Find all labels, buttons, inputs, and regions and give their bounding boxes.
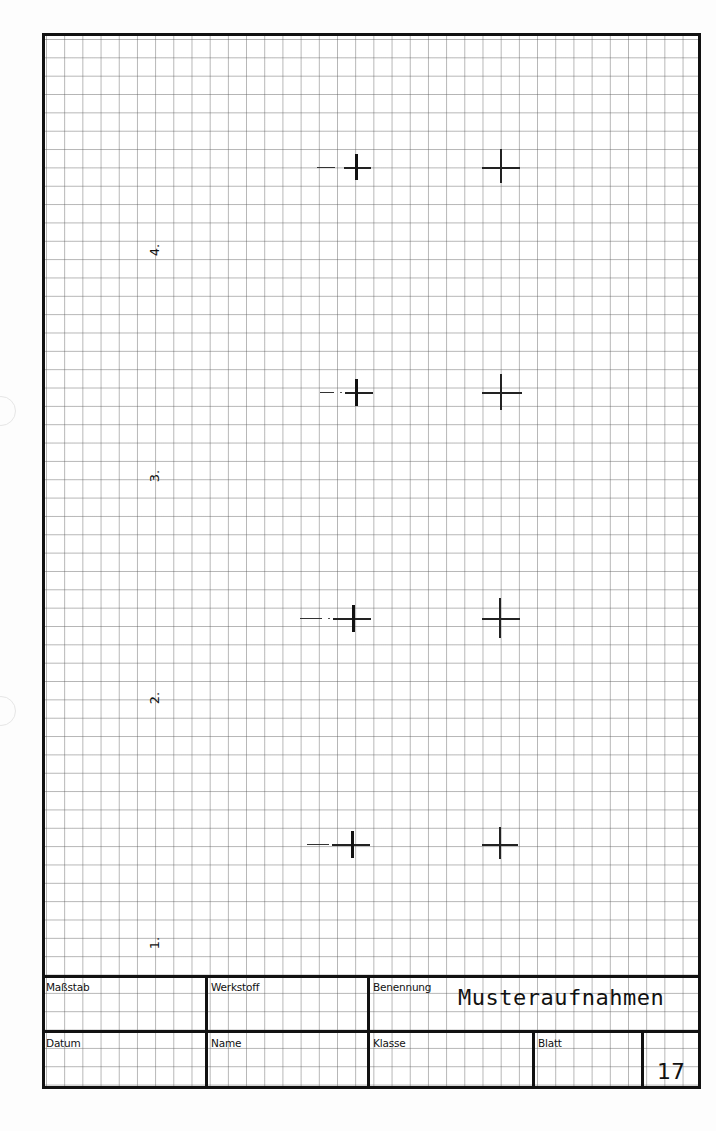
- sheet-number: 17: [657, 1059, 685, 1084]
- row-label-3: 3.: [148, 466, 162, 486]
- date-label: Datum: [46, 1037, 81, 1049]
- title-block-divider-1: [205, 975, 208, 1086]
- name-label: Name: [211, 1037, 241, 1049]
- title-block-top-rule: [45, 975, 698, 978]
- row-label-2: 2.: [148, 688, 162, 708]
- designation-value: Musteraufnahmen: [458, 985, 664, 1010]
- class-label: Klasse: [373, 1037, 405, 1049]
- title-block-divider-4: [641, 1030, 644, 1086]
- title-block-divider-2: [367, 975, 370, 1086]
- title-block: Maßstab Werkstoff Benennung Musteraufnah…: [45, 975, 698, 1086]
- scale-label: Maßstab: [46, 981, 89, 993]
- material-label: Werkstoff: [211, 981, 259, 993]
- row-label-4: 4.: [148, 240, 162, 260]
- punch-hole-bottom: [0, 696, 16, 726]
- designation-label: Benennung: [373, 981, 431, 993]
- row-label-1: 1.: [148, 933, 162, 953]
- sheet-label: Blatt: [538, 1037, 562, 1049]
- punch-hole-top: [0, 396, 16, 426]
- grid-sheet: 4. 3. 2. 1.: [42, 33, 701, 1089]
- title-block-middle-rule: [45, 1030, 698, 1033]
- title-block-divider-3: [532, 1030, 535, 1086]
